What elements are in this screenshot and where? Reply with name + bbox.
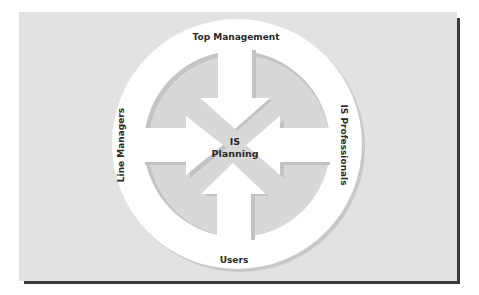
label-top-management: Top Management	[193, 32, 281, 42]
label-users: Users	[220, 255, 249, 265]
center-label-line2: Planning	[212, 148, 259, 159]
label-line-managers: Line Managers	[116, 108, 126, 182]
label-is-professionals: IS Professionals	[339, 104, 349, 185]
is-planning-diagram: IS Planning Top Management Users Line Ma…	[0, 0, 479, 295]
center-label-line1: IS	[230, 136, 241, 147]
